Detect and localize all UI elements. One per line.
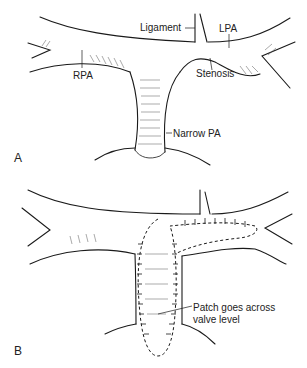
label-lpa: LPA (219, 23, 237, 34)
label-rpa: RPA (73, 70, 93, 81)
label-narrow-pa: Narrow PA (173, 128, 221, 139)
label-ligament: Ligament (140, 22, 181, 33)
label-patch-line1: Patch goes across (193, 302, 275, 313)
label-stenosis: Stenosis (196, 68, 234, 79)
panel-a-letter: A (14, 151, 22, 165)
figure: Ligament LPA RPA Stenosis Narrow PA A (0, 0, 307, 368)
label-patch-line2: valve level (193, 314, 240, 325)
panel-b-letter: B (14, 344, 22, 358)
panel-b-drawing (0, 184, 307, 368)
